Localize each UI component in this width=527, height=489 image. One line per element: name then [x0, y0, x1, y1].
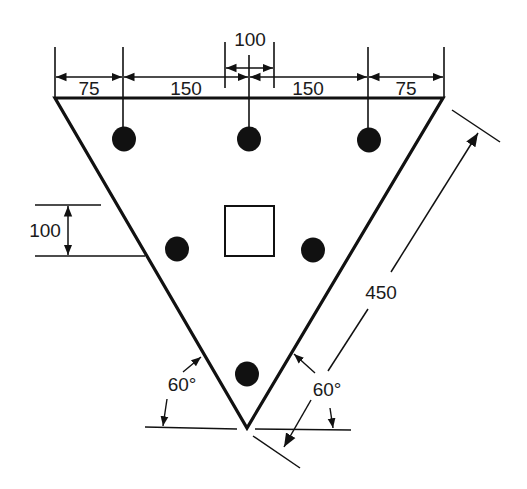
pile-5: [301, 238, 325, 263]
dim-75-left: 75: [78, 78, 99, 99]
dim-100-row: 100: [29, 220, 61, 241]
pile-3: [357, 128, 381, 153]
dim-150-right: 150: [292, 78, 324, 99]
pile-4: [165, 237, 189, 262]
pile-6: [235, 362, 259, 387]
angle-right-label: 60°: [313, 379, 342, 400]
dim-450: 450: [365, 282, 397, 303]
dim-150-left: 150: [170, 78, 202, 99]
dim-100-column: 100: [234, 29, 266, 50]
square-column: [225, 206, 274, 256]
pile-2: [237, 127, 261, 152]
top-extension-lines: [55, 42, 444, 128]
angle-left-label: 60°: [168, 374, 197, 395]
pile-1: [112, 127, 136, 152]
pile-cap-diagram: 75 150 150 75 100 100 450 60°: [0, 0, 527, 489]
dim-75-right: 75: [395, 78, 416, 99]
